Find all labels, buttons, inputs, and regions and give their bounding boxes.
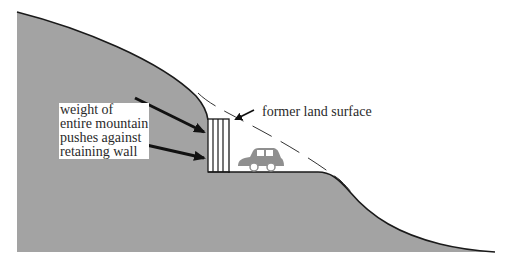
former-land-surface-label: former land surface (262, 105, 372, 119)
weight-label-line-2: entire mountain (60, 117, 148, 131)
retaining-wall (208, 119, 229, 172)
weight-label-line-1: weight of (60, 103, 148, 117)
car-icon (238, 148, 284, 171)
weight-label: weight of entire mountain pushes against… (59, 103, 149, 159)
weight-label-line-3: pushes against (60, 131, 148, 145)
former-surface-pointer-arrow (236, 110, 254, 119)
weight-label-line-4: retaining wall (60, 145, 148, 159)
